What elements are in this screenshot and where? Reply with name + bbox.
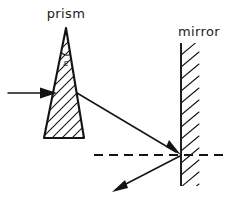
refracted-ray-arrowhead [166, 140, 181, 155]
mirror-label: mirror [178, 24, 220, 39]
optics-figure: prism mirror [0, 0, 231, 203]
figure-canvas: prism mirror [0, 0, 231, 203]
incident-ray [8, 88, 57, 99]
reflected-ray-arrowhead [112, 180, 128, 192]
apex-angle-label: ε [63, 57, 68, 68]
prism-label: prism [47, 6, 86, 21]
refracted-ray [77, 93, 181, 155]
mirror-hatching [181, 40, 199, 199]
reflected-ray [112, 156, 180, 192]
mirror-surface [181, 40, 199, 199]
